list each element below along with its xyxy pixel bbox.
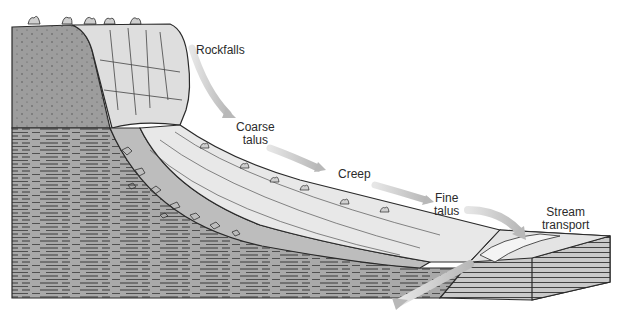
label-coarse-talus: Coarse talus (236, 121, 275, 147)
label-creep: Creep (338, 168, 371, 181)
label-fine-talus: Fine talus (434, 192, 459, 218)
slope-processes-diagram: Rockfalls Coarse talus Creep Fine talus … (0, 0, 622, 317)
arrow-rockfalls (192, 48, 228, 114)
arrow-creep (375, 185, 426, 200)
arrow-coarse-talus (270, 148, 318, 168)
diagram-artwork (0, 0, 622, 317)
label-rockfalls: Rockfalls (196, 44, 245, 57)
label-stream-transport: Stream transport (542, 206, 589, 232)
